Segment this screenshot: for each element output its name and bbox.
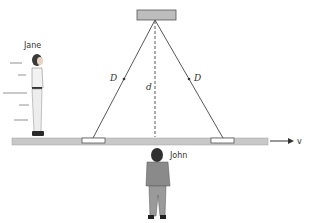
velocity-arrowhead bbox=[288, 138, 294, 144]
arrow-dot-right bbox=[188, 78, 191, 81]
left-bottom-mirror bbox=[82, 138, 105, 143]
john-label: John bbox=[169, 151, 187, 160]
arrow-dot-left bbox=[123, 78, 126, 81]
right-bottom-mirror bbox=[211, 138, 234, 143]
velocity-label: v bbox=[297, 137, 302, 146]
jane-figure bbox=[32, 54, 44, 136]
light-clock-diagram: v D D d Jane John bbox=[0, 0, 309, 223]
height-label: d bbox=[146, 82, 152, 92]
john-figure bbox=[146, 148, 170, 219]
path-right-label: D bbox=[193, 73, 201, 83]
top-mirror bbox=[137, 10, 176, 20]
path-left-label: D bbox=[109, 73, 117, 83]
jane-label: Jane bbox=[23, 41, 41, 50]
jane-height-ticks bbox=[3, 63, 29, 120]
